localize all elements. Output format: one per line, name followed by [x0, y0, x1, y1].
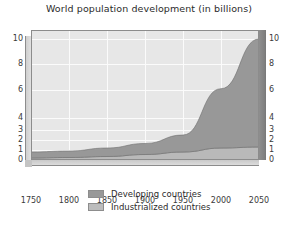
- y-tick-left-2: 2: [18, 136, 23, 144]
- plot-3d-corner: [25, 160, 32, 167]
- chart-title: World population development (in billion…: [0, 3, 298, 14]
- y-tick-left-10: 10: [13, 35, 23, 43]
- legend-item-developing-countries[interactable]: Developing countries: [0, 188, 298, 200]
- y-axis-left-labels: 012346810: [0, 30, 23, 160]
- legend-swatch-icon: [88, 190, 104, 198]
- y-tick-right-1: 1: [269, 146, 274, 154]
- y-tick-left-4: 4: [18, 114, 23, 122]
- area-series-group: [31, 30, 259, 160]
- plot-3d-bottom-face: [25, 160, 259, 166]
- chart-root: World population development (in billion…: [0, 0, 298, 230]
- chart-legend: Developing countriesIndustrialized count…: [0, 188, 298, 214]
- y-tick-left-3: 3: [18, 126, 23, 134]
- y-tick-right-2: 2: [269, 136, 274, 144]
- y-tick-right-4: 4: [269, 114, 274, 122]
- legend-swatch-icon: [88, 203, 104, 211]
- legend-label: Developing countries: [111, 189, 201, 199]
- y-tick-right-3: 3: [269, 126, 274, 134]
- legend-label: Industrialized countries: [111, 202, 211, 212]
- y-tick-right-8: 8: [269, 60, 274, 68]
- plot-3d-right-face: [259, 30, 266, 160]
- legend-item-industrialized-countries[interactable]: Industrialized countries: [0, 201, 298, 213]
- y-tick-left-6: 6: [18, 86, 23, 94]
- y-axis-right-labels: 012346810: [269, 30, 293, 160]
- plot-area: [31, 30, 259, 160]
- plot-wrapper: 012346810 012346810 17501800185019001950…: [0, 26, 298, 166]
- y-tick-left-0: 0: [18, 156, 23, 164]
- y-tick-right-10: 10: [269, 35, 279, 43]
- y-tick-right-6: 6: [269, 86, 274, 94]
- y-tick-left-1: 1: [18, 146, 23, 154]
- area-developing-countries: [31, 39, 259, 158]
- y-tick-left-8: 8: [18, 60, 23, 68]
- y-tick-right-0: 0: [269, 156, 274, 164]
